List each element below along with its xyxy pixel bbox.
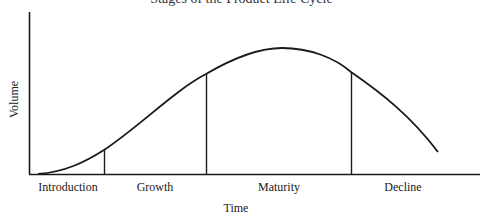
stage-label-decline: Decline [384,180,421,195]
stage-label-maturity: Maturity [258,180,300,195]
stage-label-introduction: Introduction [38,180,97,195]
y-axis-label: Volume [7,80,22,120]
x-axis-label: Time [224,201,249,216]
life-cycle-curve [38,48,438,174]
stage-label-growth: Growth [137,180,174,195]
